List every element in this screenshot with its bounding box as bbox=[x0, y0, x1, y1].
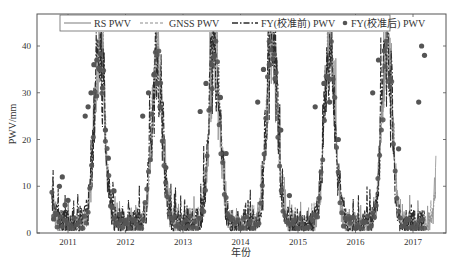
y-tick-label: 30 bbox=[22, 88, 32, 98]
marker bbox=[106, 173, 111, 178]
marker bbox=[255, 100, 260, 105]
marker bbox=[101, 68, 106, 73]
marker bbox=[363, 219, 368, 224]
legend-fy-after-label: FY(校准后) PWV bbox=[351, 17, 426, 30]
marker bbox=[279, 188, 284, 193]
legend-fy-after-marker bbox=[343, 21, 348, 26]
marker bbox=[103, 128, 108, 133]
marker bbox=[220, 160, 225, 165]
marker bbox=[398, 216, 403, 221]
y-axis-label: PWV/mm bbox=[7, 104, 18, 145]
marker bbox=[157, 104, 162, 109]
marker bbox=[77, 219, 82, 224]
marker bbox=[272, 76, 277, 81]
marker bbox=[111, 188, 116, 193]
marker bbox=[391, 141, 396, 146]
marker bbox=[248, 218, 253, 223]
marker bbox=[370, 90, 375, 95]
marker bbox=[103, 139, 108, 144]
marker bbox=[422, 226, 427, 231]
marker bbox=[384, 39, 389, 44]
marker bbox=[336, 169, 341, 174]
marker bbox=[162, 163, 167, 168]
marker bbox=[198, 109, 203, 114]
marker bbox=[117, 212, 122, 217]
marker bbox=[112, 216, 117, 221]
marker bbox=[146, 90, 151, 95]
marker bbox=[419, 43, 424, 48]
marker bbox=[319, 170, 324, 175]
marker bbox=[341, 224, 346, 229]
marker bbox=[274, 70, 279, 75]
marker bbox=[260, 183, 265, 188]
marker bbox=[321, 81, 326, 86]
marker bbox=[57, 184, 62, 189]
marker bbox=[205, 153, 210, 158]
marker bbox=[334, 145, 339, 150]
marker bbox=[140, 114, 145, 119]
marker bbox=[203, 188, 208, 193]
y-tick-label: 0 bbox=[27, 228, 32, 238]
marker bbox=[269, 47, 274, 52]
marker bbox=[80, 226, 85, 231]
marker bbox=[99, 91, 104, 96]
marker bbox=[87, 186, 92, 191]
marker bbox=[146, 169, 151, 174]
marker bbox=[198, 215, 203, 220]
marker bbox=[313, 104, 318, 109]
marker bbox=[332, 95, 337, 100]
marker bbox=[310, 218, 315, 223]
marker bbox=[149, 112, 154, 117]
marker bbox=[422, 53, 427, 58]
x-tick-label: 2012 bbox=[117, 237, 135, 247]
marker bbox=[298, 216, 303, 221]
marker bbox=[267, 39, 272, 44]
marker bbox=[372, 215, 377, 220]
y-tick-label: 20 bbox=[22, 135, 32, 145]
marker bbox=[300, 221, 305, 226]
marker bbox=[201, 209, 206, 214]
marker bbox=[393, 169, 398, 174]
marker bbox=[105, 146, 110, 151]
x-axis-label: 年份 bbox=[231, 246, 251, 258]
marker bbox=[389, 79, 394, 84]
marker bbox=[369, 223, 374, 228]
marker bbox=[377, 153, 382, 158]
marker bbox=[184, 217, 189, 222]
y-tick-label: 10 bbox=[22, 181, 32, 191]
marker bbox=[407, 218, 412, 223]
marker bbox=[208, 106, 213, 111]
marker bbox=[84, 220, 89, 225]
x-tick-label: 2011 bbox=[59, 237, 77, 247]
marker bbox=[55, 224, 60, 229]
marker bbox=[261, 67, 266, 72]
marker bbox=[160, 139, 165, 144]
x-tick-label: 2016 bbox=[347, 237, 366, 247]
marker bbox=[100, 86, 105, 91]
marker bbox=[277, 164, 282, 169]
marker bbox=[125, 221, 130, 226]
marker bbox=[143, 200, 148, 205]
marker bbox=[110, 205, 115, 210]
marker bbox=[141, 217, 146, 222]
marker bbox=[379, 128, 384, 133]
marker bbox=[265, 74, 270, 79]
marker bbox=[365, 214, 370, 219]
marker bbox=[156, 48, 161, 53]
x-tick-label: 2014 bbox=[232, 237, 251, 247]
marker bbox=[270, 56, 275, 61]
marker bbox=[278, 128, 283, 133]
marker bbox=[381, 117, 386, 122]
marker bbox=[267, 62, 272, 67]
marker bbox=[212, 55, 217, 60]
marker bbox=[262, 152, 267, 157]
marker bbox=[120, 225, 125, 230]
marker bbox=[187, 214, 192, 219]
x-tick-label: 2015 bbox=[289, 237, 308, 247]
marker bbox=[317, 196, 322, 201]
marker bbox=[315, 215, 320, 220]
marker bbox=[98, 51, 103, 56]
marker bbox=[49, 190, 54, 195]
marker bbox=[243, 226, 248, 231]
marker bbox=[416, 100, 421, 105]
